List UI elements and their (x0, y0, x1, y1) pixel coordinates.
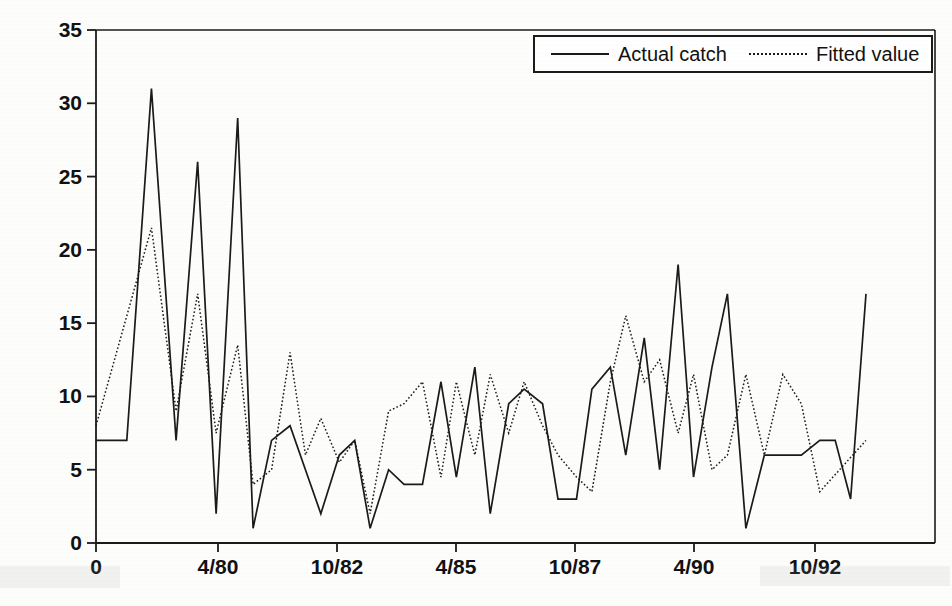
x-axis-tick-label: 4/85 (436, 555, 477, 579)
y-axis-tick-label: 20 (59, 238, 82, 262)
series-line-fitted-value (96, 228, 866, 514)
chart-legend: Actual catch Fitted value (533, 35, 933, 73)
y-axis-title: Number caught (2, 0, 42, 606)
line-chart-canvas (0, 0, 952, 606)
x-axis-tick-label: 0 (90, 555, 102, 579)
legend-label-fitted-value: Fitted value (816, 43, 919, 66)
x-axis-tick-label: 10/92 (789, 555, 842, 579)
legend-entry-fitted-value: Fitted value (749, 37, 919, 71)
x-axis-tick-label: 4/90 (674, 555, 715, 579)
y-axis-tick-label: 10 (59, 384, 82, 408)
y-axis-tick-label: 35 (59, 18, 82, 42)
series-group (96, 89, 866, 529)
x-axis-tick-label: 10/82 (311, 555, 364, 579)
legend-entry-actual-catch: Actual catch (551, 37, 727, 71)
y-axis-tick-label: 25 (59, 165, 82, 189)
y-axis-tick-label: 30 (59, 91, 82, 115)
y-axis-tick-label: 5 (70, 458, 82, 482)
solid-line-swatch (551, 53, 609, 55)
y-axis-tick-label: 15 (59, 311, 82, 335)
dotted-line-swatch (749, 53, 807, 55)
y-axis-tick-label: 0 (70, 531, 82, 555)
legend-label-actual-catch: Actual catch (618, 43, 727, 66)
chart-figure: Number caught 05101520253035 04/8010/824… (0, 0, 952, 606)
series-line-actual-catch (96, 89, 866, 529)
x-axis-tick-label: 10/87 (549, 555, 602, 579)
x-axis-tick-label: 4/80 (198, 555, 239, 579)
